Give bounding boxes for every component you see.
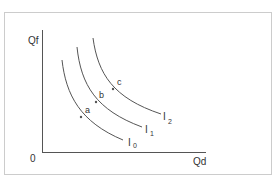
- point-b-marker: [95, 101, 97, 103]
- point-a-label: a: [85, 105, 90, 115]
- point-a-marker: [80, 116, 82, 118]
- origin-label: 0: [30, 153, 36, 164]
- x-axis-label: Qd: [193, 156, 206, 167]
- point-c-marker: [112, 88, 114, 90]
- indifference-diagram: Qf Qd 0 a b c I 0 I 1 I 2: [0, 0, 280, 185]
- y-axis-label: Qf: [28, 35, 39, 46]
- curve-label-i0-main: I: [128, 137, 131, 148]
- curve-label-i0-sub: 0: [133, 142, 137, 149]
- curve-label-i2-sub: 2: [168, 118, 172, 125]
- curve-label-i2-main: I: [163, 111, 166, 122]
- point-b-label: b: [99, 90, 104, 100]
- curve-label-i1-main: I: [145, 124, 148, 135]
- point-c-label: c: [117, 77, 122, 87]
- diagram-frame: [5, 13, 272, 175]
- curve-label-i1-sub: 1: [150, 130, 154, 137]
